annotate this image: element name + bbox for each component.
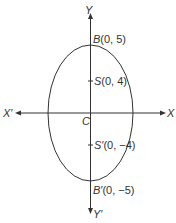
ellipse-diagram: Y Y′ X′ X C B(0, 5) S(0, 4) S′(0, −4) B′… — [0, 0, 176, 223]
center-label: C — [82, 115, 90, 127]
point-b-prime-label: B′(0, −5) — [93, 184, 135, 196]
point-b-label: B(0, 5) — [93, 33, 126, 45]
x-axis-label: X — [166, 107, 175, 119]
point-s-label: S(0, 4) — [94, 75, 127, 87]
y-prime-axis-label: Y′ — [93, 208, 103, 220]
point-s-prime-label: S′(0, −4) — [94, 139, 136, 151]
x-axis-left-arrow-icon — [15, 111, 21, 116]
x-axis-right-arrow-icon — [160, 111, 166, 116]
x-prime-axis-label: X′ — [2, 107, 13, 119]
y-axis-label: Y — [85, 4, 93, 16]
